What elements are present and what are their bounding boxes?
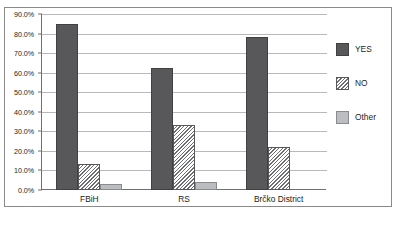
bar-yes <box>56 24 78 190</box>
legend-swatch-no <box>336 77 349 90</box>
bar-no <box>268 147 290 190</box>
y-axis-tick-label: 60.0% <box>14 68 34 77</box>
y-axis-tick-label: 0.0% <box>18 186 34 195</box>
y-axis-tick-label: 90.0% <box>14 10 34 19</box>
legend-label: NO <box>355 78 368 88</box>
y-axis-tick-label: 30.0% <box>14 127 34 136</box>
y-axis-tick-label: 40.0% <box>14 107 34 116</box>
legend-item: NO <box>336 76 394 90</box>
legend-label: YES <box>355 44 372 54</box>
chart-legend: YESNOOther <box>336 42 394 144</box>
bar-group <box>151 14 217 190</box>
x-axis-category-labels: FBiHRSBrčko District <box>42 194 326 212</box>
legend-swatch-yes <box>336 43 349 56</box>
bar-no <box>173 125 195 190</box>
y-axis-tick-label: 20.0% <box>14 146 34 155</box>
bar-groups <box>42 14 326 190</box>
legend-label: Other <box>355 112 376 122</box>
legend-item: YES <box>336 42 394 56</box>
bar-yes <box>246 37 268 190</box>
bar-yes <box>151 68 173 190</box>
x-axis-category-label: RS <box>178 194 190 204</box>
bar-other <box>195 182 217 190</box>
y-axis-tick-label: 10.0% <box>14 166 34 175</box>
bar-group <box>56 14 122 190</box>
x-axis-category-label: Brčko District <box>254 194 303 204</box>
y-axis-tick-label: 70.0% <box>14 49 34 58</box>
legend-swatch-other <box>336 111 349 124</box>
bar-no <box>78 164 100 190</box>
y-axis-tick-labels: 0.0%10.0%20.0%30.0%40.0%50.0%60.0%70.0%8… <box>0 14 38 190</box>
legend-item: Other <box>336 110 394 124</box>
x-axis-category-label: FBiH <box>80 194 99 204</box>
y-axis-tick-label: 80.0% <box>14 29 34 38</box>
bar-other <box>100 184 122 190</box>
bar-group <box>246 14 312 190</box>
bar-chart: 0.0%10.0%20.0%30.0%40.0%50.0%60.0%70.0%8… <box>0 0 397 230</box>
y-axis-tick-label: 50.0% <box>14 88 34 97</box>
